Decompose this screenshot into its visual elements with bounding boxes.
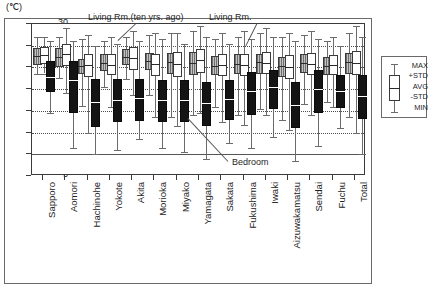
whisker-line [282,37,283,120]
box-plot [247,24,256,176]
box-plot [46,24,55,176]
box-plot [180,24,189,176]
whisker-min-cap [226,143,233,144]
whisker-min-cap [248,148,255,149]
whisker-max-cap [359,37,366,38]
whisker-min-cap [337,128,344,129]
avg-line [202,103,211,104]
legend-min-cap [391,112,398,113]
whisker-min-cap [70,148,77,149]
whisker-line [289,33,290,131]
avg-line [269,87,278,88]
x-tick-label: Sapporo [46,182,57,218]
box-plot [358,24,367,176]
std-box [180,80,189,121]
whisker-min-cap [315,146,322,147]
legend-label: MAX [403,61,428,71]
box-plot [291,24,300,176]
annotation-label: Living Rm.(ten yrs. ago) [88,12,184,22]
x-tick-label: Total [358,182,369,202]
std-box [69,61,78,114]
legend-label: MIN [403,103,428,113]
box-plot [269,24,278,176]
whisker-min-cap [181,152,188,153]
box-plot [113,24,122,176]
avg-line [314,89,323,90]
avg-line [247,91,256,92]
whisker-max-cap [226,44,233,45]
whisker-line [356,26,357,132]
x-tick-label: Sakata [224,182,235,212]
x-tick-label: Fuchu [336,182,347,208]
whisker-min-cap [159,148,166,149]
whisker-max-cap [315,39,322,40]
whisker-line [88,35,89,134]
whisker-min-cap [47,113,54,114]
whisker-min-cap [359,154,366,155]
whisker-line [222,33,223,122]
x-tick-label: Yokote [113,182,124,211]
whisker-min-cap [292,161,299,162]
legend-label: +STD [403,71,428,81]
whisker-min-cap [270,137,277,138]
x-tick-label: Miyako [180,182,191,212]
whisker-max-cap [292,41,299,42]
whisker-max-cap [270,37,277,38]
legend-max-cap [391,64,398,65]
annotation-label: Bedroom [232,157,269,167]
whisker-max-cap [136,41,143,42]
box-plot [91,24,100,176]
box-plot [336,24,345,176]
legend-label: -STD [403,92,428,102]
avg-line [46,77,55,78]
std-box [269,70,278,109]
avg-line [113,100,122,101]
avg-line [180,100,189,101]
x-tick-label: Akita [135,182,146,203]
x-tick-label: Iwaki [269,182,280,204]
whisker-max-cap [159,39,166,40]
std-box [247,72,256,115]
std-box [113,79,122,122]
whisker-line [177,33,178,126]
x-tick-label: Aizuwakamatsu [291,182,302,249]
whisker-min-cap [114,150,121,151]
whisker-max-cap [181,44,188,45]
std-box [314,70,323,113]
box-plot [135,24,144,176]
std-box [202,82,211,126]
legend-labels: MAX+STDAVG-STDMIN [403,61,428,113]
avg-line [358,96,367,97]
whisker-line [349,33,350,118]
whisker-max-cap [337,46,344,47]
whisker-max-cap [114,44,121,45]
avg-line [336,91,345,92]
whisker-max-cap [92,46,99,47]
avg-line [69,80,78,81]
box-plot [202,24,211,176]
whisker-max-cap [203,37,210,38]
plot-area [31,23,365,175]
whisker-line [238,37,239,115]
x-tick-label: Aomori [68,182,79,212]
avg-line [291,105,300,106]
box-plot [69,24,78,176]
legend-boxplot-glyph [389,64,400,112]
box-plot [225,24,234,176]
box-plot [158,24,167,176]
whisker-max-cap [70,41,77,42]
x-tick-label: Yamagata [202,182,213,225]
whisker-max-cap [47,41,54,42]
whisker-min-cap [136,139,143,140]
whisker-min-cap [92,154,99,155]
avg-line [225,99,234,100]
legend-label: AVG [403,82,428,92]
y-axis-unit-label: (℃) [6,2,22,12]
whisker-min-cap [203,159,210,160]
std-box [135,79,144,122]
annotation-label: Living Rm. [209,12,252,22]
x-tick-label: Morioka [157,182,168,216]
x-tick-label: Fukushima [247,182,258,228]
chart-root: (℃) 302520151050-5 SapporoAomoriHachinoh… [0,0,435,289]
x-tick-label: Sendai [313,182,324,212]
